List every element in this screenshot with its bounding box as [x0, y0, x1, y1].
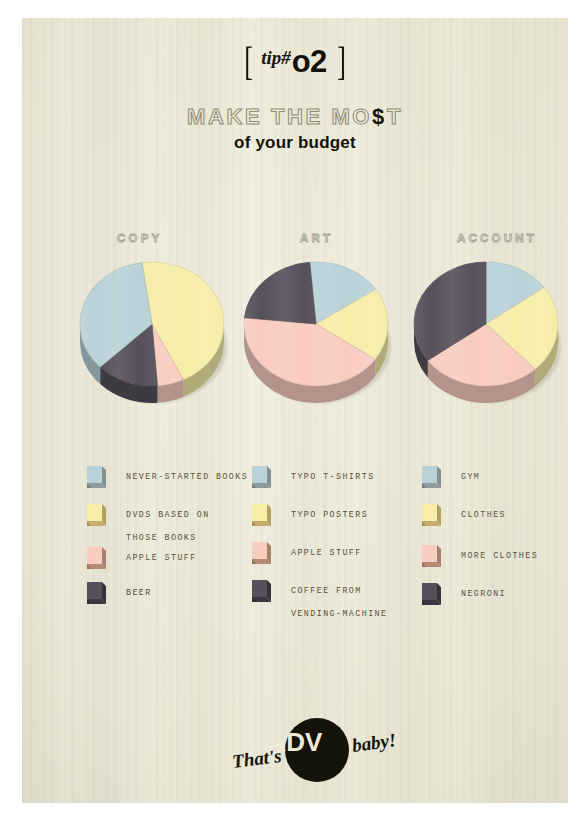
tip-prefix: tip# [261, 47, 291, 68]
legend-item: TYPO T-SHIRTS [252, 466, 375, 484]
legend-label: NEGRONI [461, 583, 506, 601]
legend-label: CLOTHES [461, 504, 506, 522]
legend-label-line: NEVER-STARTED BOOKS [126, 469, 248, 484]
pie-chart-art [230, 252, 402, 412]
legend-label-line: CLOTHES [461, 507, 506, 522]
legend-item: APPLE STUFF [252, 542, 362, 560]
legend-label-line: APPLE STUFF [126, 550, 197, 565]
legend-item: APPLE STUFF [87, 547, 197, 565]
legend-item: COFFEE FROMVENDING-MACHINE [252, 580, 387, 621]
legend-swatch-cube-icon [87, 466, 105, 492]
legend-label-line: GYM [461, 469, 480, 484]
headline: MAKE THE MO$T [22, 104, 568, 130]
legend-label-line: VENDING-MACHINE [291, 606, 387, 621]
legend-swatch-cube-icon [422, 466, 440, 492]
legend-label: MORE CLOTHES [461, 545, 538, 563]
poster-canvas: [tip#o2] MAKE THE MO$T of your budget CO… [22, 18, 568, 803]
legend-swatch-cube-icon [422, 545, 440, 571]
tip-header: [tip#o2] [22, 38, 568, 85]
legend-swatch-cube-icon [252, 542, 270, 568]
legend-label-line: TYPO T-SHIRTS [291, 469, 375, 484]
legend-label-line: TYPO POSTERS [291, 507, 368, 522]
legend-label-line: BEER [126, 585, 152, 600]
legend-label: DVDS BASED ONTHOSE BOOKS [126, 504, 210, 545]
legend-swatch-cube-icon [252, 580, 270, 606]
bracket-right-icon: ] [337, 38, 346, 85]
legend-swatch-cube-icon [87, 547, 105, 573]
legend-label: TYPO POSTERS [291, 504, 368, 522]
column-title-copy: COPY [117, 232, 197, 244]
legend-item: GYM [422, 466, 480, 484]
legend-item: CLOTHES [422, 504, 506, 522]
legend-label: GYM [461, 466, 480, 484]
column-title-art: ART [300, 232, 380, 244]
headline-post: T [387, 104, 403, 129]
legend-item: DVDS BASED ONTHOSE BOOKS [87, 504, 210, 545]
legend-item: TYPO POSTERS [252, 504, 368, 522]
legend-swatch-cube-icon [87, 504, 105, 530]
legend-swatch-cube-icon [252, 504, 270, 530]
legend-item: MORE CLOTHES [422, 545, 538, 563]
pie-chart-account [400, 252, 572, 412]
subheadline: of your budget [22, 133, 568, 153]
legend-label: TYPO T-SHIRTS [291, 466, 375, 484]
legend-label-line: DVDS BASED ON [126, 507, 210, 522]
logo-adv-text: ADV [22, 727, 568, 758]
legend-item: NEGRONI [422, 583, 506, 601]
bracket-left-icon: [ [244, 38, 253, 85]
legend-swatch-cube-icon [422, 583, 440, 609]
legend-label: COFFEE FROMVENDING-MACHINE [291, 580, 387, 621]
headline-pre: MAKE THE MO [187, 104, 372, 129]
headline-dollar-glyph: $ [372, 104, 387, 129]
legend-label-line: THOSE BOOKS [126, 530, 210, 545]
legend-item: BEER [87, 582, 152, 600]
tip-number: o2 [292, 44, 327, 79]
legend-label-line: COFFEE FROM [291, 583, 387, 598]
legend-label: BEER [126, 582, 152, 600]
legend-label: APPLE STUFF [291, 542, 362, 560]
legend-swatch-cube-icon [252, 466, 270, 492]
legend-item: NEVER-STARTED BOOKS [87, 466, 248, 484]
pie-chart-copy [66, 252, 238, 412]
legend-label-line: APPLE STUFF [291, 545, 362, 560]
legend-label: APPLE STUFF [126, 547, 197, 565]
column-title-account: ACCOUNT [457, 232, 567, 244]
legend-swatch-cube-icon [422, 504, 440, 530]
brand-logo: That's ADV baby! [22, 708, 568, 788]
legend-label-line: MORE CLOTHES [461, 548, 538, 563]
legend-swatch-cube-icon [87, 582, 105, 608]
legend-label-line: NEGRONI [461, 586, 506, 601]
legend-label: NEVER-STARTED BOOKS [126, 466, 248, 484]
